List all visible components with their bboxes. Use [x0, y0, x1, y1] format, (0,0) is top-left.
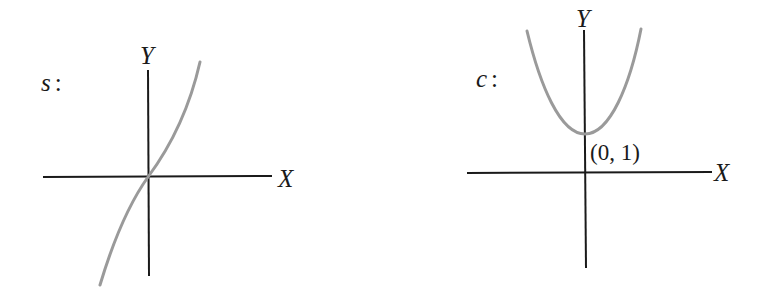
- s-function-label: s:: [41, 70, 62, 95]
- s-x-axis-label: X: [278, 166, 293, 191]
- s-graph: [43, 62, 272, 285]
- c-minimum-point-label: (0, 1): [590, 141, 640, 164]
- c-y-axis: [584, 30, 586, 268]
- c-y-axis-label: Y: [576, 6, 590, 31]
- s-x-axis: [43, 176, 272, 177]
- c-x-axis-label: X: [714, 160, 729, 185]
- s-y-axis: [148, 70, 149, 276]
- c-function-label: c:: [476, 66, 498, 91]
- graphs-canvas: [0, 0, 763, 306]
- s-curve: [100, 62, 200, 285]
- c-x-axis: [467, 172, 712, 173]
- s-y-axis-label: Y: [140, 43, 154, 68]
